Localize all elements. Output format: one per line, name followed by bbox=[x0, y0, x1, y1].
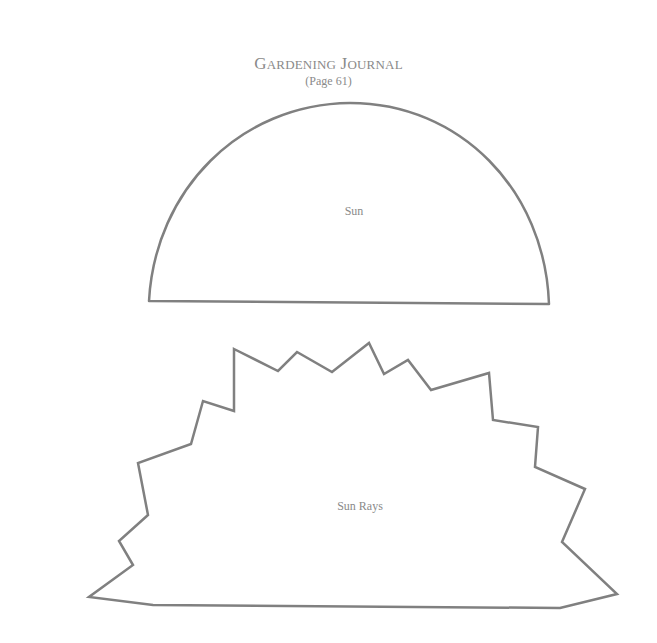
template-shapes bbox=[0, 0, 657, 643]
sun-rays-label: Sun Rays bbox=[300, 499, 420, 514]
sun-label: Sun bbox=[294, 204, 414, 219]
sun-rays-outline bbox=[89, 343, 617, 608]
